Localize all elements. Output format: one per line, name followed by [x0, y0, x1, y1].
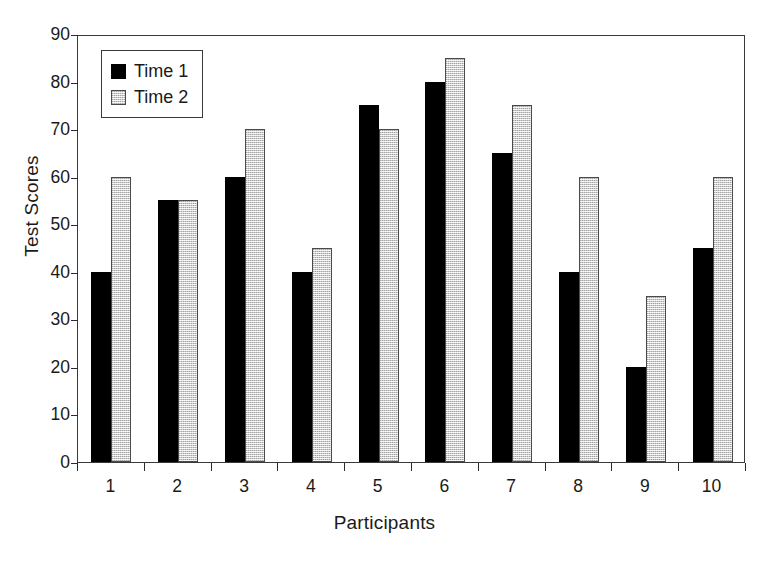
y-tick-label-90: 90 [38, 26, 70, 44]
bar [359, 105, 379, 462]
bar [158, 200, 178, 462]
y-tick-label-20: 20 [38, 359, 70, 377]
y-tick-mark-70 [71, 130, 78, 131]
bar [559, 272, 579, 462]
legend-swatch-time-2-icon [111, 90, 126, 105]
x-tick-mark [77, 463, 78, 471]
bar-group [626, 36, 666, 462]
bar [492, 153, 512, 462]
x-tick-label-10: 10 [682, 478, 742, 496]
y-tick-label-10: 10 [38, 407, 70, 425]
y-tick-mark-80 [71, 83, 78, 84]
bar-group [225, 36, 265, 462]
bar-chart: Test Scores 0102030405060708090 Time 1 T… [0, 0, 769, 571]
y-tick-mark-40 [71, 273, 78, 274]
y-tick-mark-90 [71, 35, 78, 36]
bar [693, 248, 713, 462]
bar [626, 367, 646, 462]
x-tick-label-8: 8 [548, 478, 608, 496]
bar [579, 177, 599, 462]
bar [111, 177, 131, 462]
y-tick-label-40: 40 [38, 264, 70, 282]
x-tick-label-5: 5 [348, 478, 408, 496]
x-tick-mark [277, 463, 278, 471]
x-axis-title: Participants [0, 512, 769, 534]
x-tick-label-4: 4 [281, 478, 341, 496]
bar-group [292, 36, 332, 462]
x-tick-mark [745, 463, 746, 471]
bar [292, 272, 312, 462]
x-tick-mark [678, 463, 679, 471]
x-tick-mark [344, 463, 345, 471]
bar-group [693, 36, 733, 462]
x-tick-label-9: 9 [615, 478, 675, 496]
x-tick-mark [611, 463, 612, 471]
y-tick-label-30: 30 [38, 312, 70, 330]
y-tick-mark-50 [71, 225, 78, 226]
x-tick-mark [411, 463, 412, 471]
bar [91, 272, 111, 462]
legend-item-0: Time 1 [111, 58, 188, 84]
bar-group [492, 36, 532, 462]
x-tick-mark [144, 463, 145, 471]
legend-label-time-2: Time 2 [134, 88, 188, 106]
bar [445, 58, 465, 462]
bar-group [359, 36, 399, 462]
x-tick-label-7: 7 [481, 478, 541, 496]
legend-item-1: Time 2 [111, 84, 188, 110]
bar [312, 248, 332, 462]
bar [245, 129, 265, 462]
x-tick-label-6: 6 [414, 478, 474, 496]
bar [178, 200, 198, 462]
legend-swatch-time-1-icon [111, 64, 126, 79]
x-tick-label-1: 1 [80, 478, 140, 496]
y-tick-mark-60 [71, 178, 78, 179]
y-tick-label-80: 80 [38, 74, 70, 92]
bar-group [425, 36, 465, 462]
y-tick-label-50: 50 [38, 216, 70, 234]
x-tick-mark [211, 463, 212, 471]
bar [646, 296, 666, 462]
y-tick-mark-20 [71, 368, 78, 369]
y-tick-mark-30 [71, 320, 78, 321]
x-tick-label-2: 2 [147, 478, 207, 496]
bar [225, 177, 245, 462]
y-tick-label-60: 60 [38, 169, 70, 187]
bar [425, 82, 445, 462]
legend-label-time-1: Time 1 [134, 62, 188, 80]
bar [512, 105, 532, 462]
bar-group [559, 36, 599, 462]
y-axis-tick-labels: 0102030405060708090 [38, 35, 70, 463]
y-tick-label-0: 0 [38, 454, 70, 472]
bar [713, 177, 733, 462]
y-tick-mark-10 [71, 415, 78, 416]
y-tick-label-70: 70 [38, 121, 70, 139]
bar [379, 129, 399, 462]
x-tick-mark [478, 463, 479, 471]
x-tick-label-3: 3 [214, 478, 274, 496]
x-tick-mark [545, 463, 546, 471]
legend: Time 1 Time 2 [101, 50, 203, 118]
plot-area: Time 1 Time 2 [77, 35, 745, 463]
